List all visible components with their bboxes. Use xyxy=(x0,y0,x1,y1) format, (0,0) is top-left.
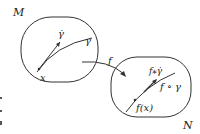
label-n: N xyxy=(182,119,193,132)
label-x: x xyxy=(40,72,46,83)
map-f-arrow xyxy=(82,62,124,74)
cropped-text-fragment xyxy=(0,110,2,112)
cropped-text-fragment xyxy=(0,97,2,99)
manifold-m-region xyxy=(21,17,98,82)
curve-gamma xyxy=(37,38,92,72)
diagram-canvas: M x γ̇ γ f f⁎γ̇ f ∘ γ f(x) N xyxy=(0,0,200,134)
label-pushforward: f⁎γ̇ xyxy=(148,66,163,76)
label-f-circ-gamma: f ∘ γ xyxy=(159,81,181,92)
point-fx xyxy=(134,99,137,102)
label-fx: f(x) xyxy=(135,102,153,113)
point-x xyxy=(38,68,41,71)
tangent-vector-gamma-dot xyxy=(39,42,60,69)
label-m: M xyxy=(12,6,25,19)
cropped-text-fragment xyxy=(0,121,2,125)
label-gamma-dot: γ̇ xyxy=(58,28,64,39)
label-gamma: γ xyxy=(85,35,91,46)
label-f: f xyxy=(107,55,114,66)
